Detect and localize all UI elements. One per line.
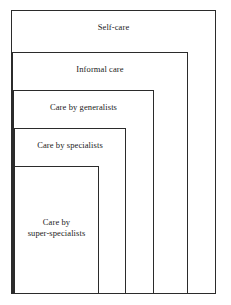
tier-label-care-by-specialists: Care by specialists [14,140,126,151]
tier-label-informal-care: Informal care [12,64,188,75]
tier-label-care-by-super-specialists: Care by super-specialists [14,217,99,239]
tier-label-self-care: Self-care [11,22,216,33]
tier-label-care-by-generalists: Care by generalists [13,102,154,113]
nested-tiers-diagram: Self-care Informal care Care by generali… [0,0,231,305]
